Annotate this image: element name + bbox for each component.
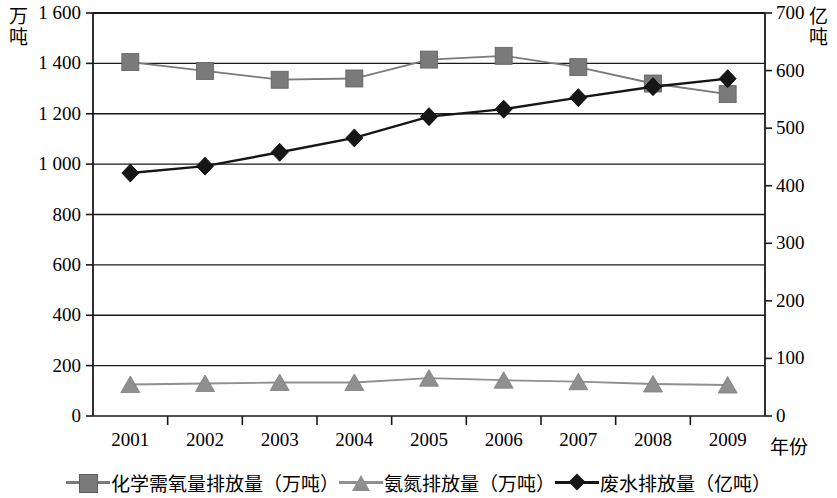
square-marker <box>66 472 110 492</box>
data-point <box>122 164 139 182</box>
data-point <box>421 108 438 126</box>
data-point <box>271 143 288 161</box>
data-point <box>271 71 288 88</box>
legend-item-3[interactable]: 废水排放量（亿吨） <box>555 469 771 496</box>
data-point <box>570 89 587 107</box>
data-point <box>495 47 512 64</box>
data-point <box>346 129 363 147</box>
series-1 <box>122 47 736 102</box>
diamond-marker <box>555 472 599 492</box>
legend-item-1[interactable]: 化学需氧量排放量（万吨） <box>66 469 339 496</box>
series-3 <box>122 70 736 182</box>
legend-diamond-icon <box>569 474 586 491</box>
legend-item-2[interactable]: 氨氮排放量（万吨） <box>339 469 555 496</box>
data-point <box>346 70 363 87</box>
chart-legend: 化学需氧量排放量（万吨）氨氮排放量（万吨）废水排放量（亿吨） <box>0 466 837 498</box>
data-point <box>122 54 139 71</box>
legend-item-label: 化学需氧量排放量（万吨） <box>110 469 339 496</box>
data-point <box>570 59 587 76</box>
data-point <box>197 157 214 175</box>
data-point <box>421 51 438 68</box>
data-point <box>719 70 736 88</box>
legend-item-label: 废水排放量（亿吨） <box>599 469 771 496</box>
legend-square-icon <box>79 474 98 493</box>
triangle-marker <box>339 472 383 492</box>
data-point <box>495 100 512 118</box>
chart-container: 万 吨 亿 吨 02004006008001 0001 2001 4001 60… <box>0 0 837 498</box>
data-point <box>197 62 214 79</box>
series-2 <box>121 370 737 393</box>
legend-triangle-icon <box>352 475 370 491</box>
legend-item-label: 氨氮排放量（万吨） <box>383 469 555 496</box>
plot-area <box>0 0 837 498</box>
